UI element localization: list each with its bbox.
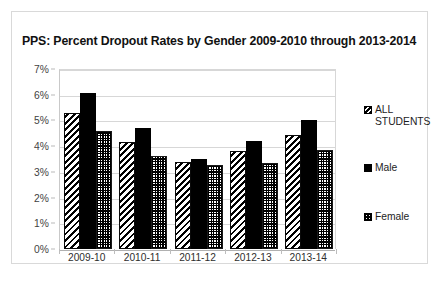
x-tick-label: 2009-10 <box>68 252 105 263</box>
bar <box>119 142 135 249</box>
legend-entry[interactable]: Female <box>364 211 409 223</box>
legend-label: ALL STUDENTS <box>375 104 431 129</box>
y-tick-label: 3% <box>34 166 49 177</box>
bar <box>96 131 112 249</box>
y-tick-label: 1% <box>34 218 49 229</box>
legend-label: Female <box>375 211 409 223</box>
y-tick-mark <box>51 120 55 121</box>
bar-group <box>64 70 112 249</box>
bar <box>207 165 223 249</box>
legend-swatch-icon <box>364 106 372 114</box>
y-tick-label: 0% <box>34 244 49 255</box>
bar-group <box>230 70 278 249</box>
bar-group <box>175 70 223 249</box>
x-tick-label: 2011-12 <box>179 252 216 263</box>
x-tick-label: 2012-13 <box>234 252 271 263</box>
y-tick-mark <box>51 69 55 70</box>
bar <box>135 128 151 249</box>
y-axis: 0%1%2%3%4%5%6%7% <box>12 69 55 249</box>
bar <box>191 159 207 249</box>
legend-swatch-icon <box>364 213 372 221</box>
y-tick-mark <box>51 197 55 198</box>
y-tick-mark <box>51 146 55 147</box>
legend-entry[interactable]: Male <box>364 162 397 174</box>
y-tick-mark <box>51 249 55 250</box>
bar <box>230 151 246 249</box>
bar-group <box>285 70 333 249</box>
plot-area <box>59 69 336 249</box>
x-tick-label: 2010-11 <box>124 252 161 263</box>
bar-group <box>119 70 167 249</box>
y-tick-mark <box>51 223 55 224</box>
chart-frame: PPS: Percent Dropout Rates by Gender 200… <box>11 11 428 264</box>
legend-label: Male <box>375 162 397 174</box>
bar <box>317 150 333 249</box>
bar <box>175 162 191 249</box>
bars-layer <box>60 70 335 249</box>
y-tick-label: 7% <box>34 64 49 75</box>
y-tick-mark <box>51 171 55 172</box>
x-tick-mark <box>336 249 337 254</box>
bar <box>262 163 278 249</box>
bar <box>80 93 96 249</box>
chart-title: PPS: Percent Dropout Rates by Gender 200… <box>22 34 422 48</box>
bar <box>246 141 262 249</box>
bar <box>301 120 317 249</box>
legend-swatch-icon <box>364 164 372 172</box>
bar <box>285 135 301 249</box>
x-axis: 2009-102010-112011-122012-132013-14 <box>59 252 336 272</box>
bar <box>64 113 80 249</box>
bar <box>151 156 167 249</box>
y-tick-label: 4% <box>34 141 49 152</box>
y-tick-label: 2% <box>34 192 49 203</box>
legend-entry[interactable]: ALL STUDENTS <box>364 104 431 129</box>
y-tick-label: 5% <box>34 115 49 126</box>
y-tick-mark <box>51 94 55 95</box>
x-tick-label: 2013-14 <box>290 252 327 263</box>
y-tick-label: 6% <box>34 89 49 100</box>
